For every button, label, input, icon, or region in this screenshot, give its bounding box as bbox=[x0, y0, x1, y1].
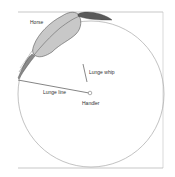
lunge-line-label: Lunge line bbox=[43, 90, 66, 95]
horse-label: Horse bbox=[30, 20, 43, 25]
lunge-whip bbox=[83, 64, 87, 82]
lunging-diagram bbox=[0, 0, 175, 177]
handler-marker bbox=[88, 91, 92, 95]
lunge-whip-label: Lunge whip bbox=[89, 70, 115, 75]
handler-label: Handler bbox=[82, 101, 100, 106]
